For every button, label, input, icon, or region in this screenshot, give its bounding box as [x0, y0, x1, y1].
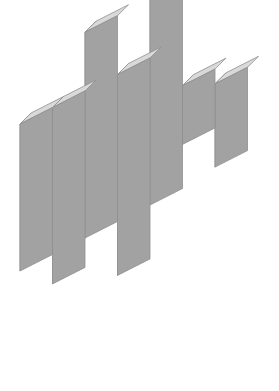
slab-front-face-3: [85, 16, 118, 238]
grid-line-horizontal-4: [20, 0, 248, 26]
slab-front-face-4: [118, 58, 151, 275]
slab-group: [20, 0, 259, 284]
slab-front-face-2: [53, 91, 86, 284]
slab-front-face-7: [215, 67, 248, 167]
isometric-slab-scene: [0, 0, 279, 391]
slab-front-face-1: [20, 108, 53, 272]
illustration-canvas: [0, 0, 279, 391]
slab-front-face-5: [150, 0, 183, 205]
